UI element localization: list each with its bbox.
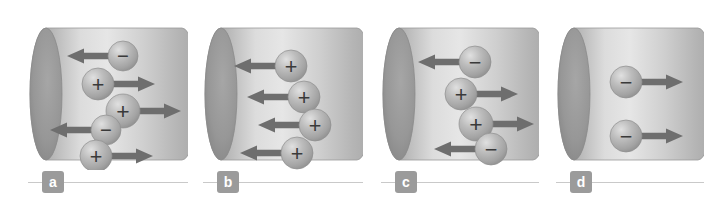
- charge-carrier-negative: −: [475, 133, 507, 165]
- label-rule-right: [592, 182, 704, 183]
- charge-sign: −: [620, 124, 633, 149]
- charge-carrier-positive: +: [288, 81, 320, 113]
- charge-sign: −: [469, 50, 482, 75]
- charge-carrier-positive: +: [299, 109, 331, 141]
- charge-sign: +: [469, 111, 482, 137]
- panel-label-row-a: a: [28, 171, 188, 193]
- charge-carrier-positive: +: [82, 68, 114, 100]
- panel-label-badge-a: a: [42, 171, 64, 193]
- panel-a: −++−+a: [28, 0, 188, 215]
- label-rule-right: [239, 182, 363, 183]
- cylinder-left-cap: [205, 28, 237, 160]
- charge-sign: −: [100, 119, 112, 141]
- charge-sign: +: [116, 98, 129, 124]
- conductor-illustration-b: ++++: [203, 18, 363, 170]
- charge-sign: −: [117, 45, 129, 67]
- physics-figure: −++−+a++++b−++−c−−d: [0, 0, 706, 215]
- panel-label-badge-b: b: [217, 171, 239, 193]
- charge-sign: +: [291, 141, 304, 166]
- conductor-illustration-a: −++−+: [28, 18, 188, 170]
- charge-carrier-positive: +: [80, 140, 112, 170]
- charge-sign: +: [455, 82, 468, 107]
- cylinder-b: ++++: [203, 18, 363, 170]
- panel-label-badge-c: c: [395, 171, 417, 193]
- charge-sign: +: [92, 72, 105, 97]
- label-rule-left: [381, 182, 395, 183]
- cylinder-a: −++−+: [28, 18, 188, 170]
- charge-carrier-negative: −: [610, 120, 642, 152]
- charge-sign: −: [620, 70, 633, 95]
- charge-carrier-negative: −: [459, 46, 491, 78]
- charge-carrier-positive: +: [281, 137, 313, 169]
- charge-sign: +: [309, 113, 322, 138]
- charge-sign: +: [90, 144, 103, 169]
- panel-b: ++++b: [203, 0, 363, 215]
- label-rule-left: [556, 182, 570, 183]
- conductor-illustration-d: −−: [556, 18, 704, 170]
- cylinder-left-cap: [558, 28, 590, 160]
- panel-label-row-b: b: [203, 171, 363, 193]
- cylinder-c: −++−: [381, 18, 539, 170]
- charge-sign: +: [298, 85, 311, 110]
- cylinder-left-cap: [383, 28, 415, 160]
- charge-sign: −: [485, 137, 498, 162]
- panel-c: −++−c: [381, 0, 539, 215]
- label-rule-right: [417, 182, 539, 183]
- label-rule-right: [64, 182, 188, 183]
- charge-carrier-positive: +: [445, 78, 477, 110]
- panel-label-row-c: c: [381, 171, 539, 193]
- charge-carrier-negative: −: [108, 41, 138, 71]
- panel-d: −−d: [556, 0, 704, 215]
- cylinder-left-cap: [30, 28, 62, 160]
- charge-carrier-positive: +: [275, 50, 307, 82]
- label-rule-left: [28, 182, 42, 183]
- conductor-illustration-c: −++−: [381, 18, 539, 170]
- label-rule-left: [203, 182, 217, 183]
- charge-carrier-negative: −: [610, 66, 642, 98]
- cylinder-d: −−: [556, 18, 704, 170]
- panel-label-badge-d: d: [570, 171, 592, 193]
- panel-label-row-d: d: [556, 171, 704, 193]
- charge-sign: +: [285, 54, 298, 79]
